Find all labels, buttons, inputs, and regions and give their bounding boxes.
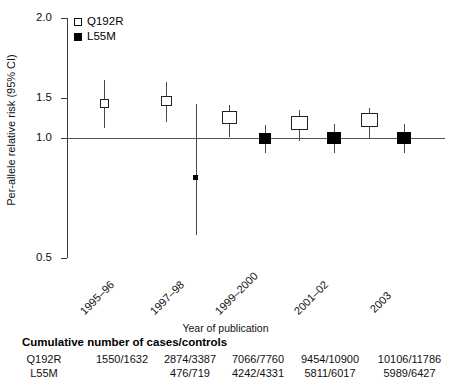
filled-square-icon — [74, 33, 82, 41]
cell-q192r-1999-2000: 7066/7760 — [224, 352, 292, 366]
marker-l55m-2001-02 — [327, 132, 341, 144]
marker-q192r-1995-96 — [100, 99, 109, 108]
cell-q192r-2001-02: 9454/10900 — [292, 352, 368, 366]
whisker-l55m-1997-98 — [196, 104, 197, 235]
table-row: Q192R 1550/1632 2874/3387 7066/7760 9454… — [0, 352, 451, 366]
footer-heading: Cumulative number of cases/controls — [22, 336, 227, 348]
marker-q192r-1997-98 — [161, 96, 172, 106]
table-row: L55M 476/719 4242/4331 5811/6017 5989/64… — [0, 366, 451, 380]
cell-l55m-2001-02: 5811/6017 — [292, 366, 368, 380]
legend: Q192R L55M — [74, 14, 123, 44]
y-axis-title: Per-allele relative risk (95% CI) — [5, 15, 17, 245]
row-label-l55m: L55M — [0, 366, 88, 380]
y-tick-label-1.0: 1.0 — [18, 132, 52, 144]
legend-label-l55m: L55M — [87, 29, 116, 44]
cell-q192r-1997-98: 2874/3387 — [156, 352, 224, 366]
legend-item-q192r: Q192R — [74, 14, 123, 29]
y-tick-label-0.5: 0.5 — [18, 252, 52, 264]
row-label-q192r: Q192R — [0, 352, 88, 366]
x-tick-label-1995-96: 1995–96 — [78, 278, 117, 317]
y-tick-0.5 — [61, 258, 67, 259]
legend-item-l55m: L55M — [74, 29, 123, 44]
cell-l55m-1997-98: 476/719 — [156, 366, 224, 380]
marker-l55m-1999-2000 — [259, 133, 271, 144]
cell-l55m-2003: 5989/6427 — [368, 366, 451, 380]
cell-q192r-2003: 10106/11786 — [368, 352, 451, 366]
x-tick-label-1997-98: 1997–98 — [148, 278, 187, 317]
marker-q192r-2001-02 — [291, 116, 308, 130]
marker-l55m-2003 — [397, 132, 411, 144]
x-tick-label-1999-2000: 1999–2000 — [213, 270, 260, 317]
forest-plot-figure: 2.0 1.5 1.0 0.5 Per-allele relative risk… — [0, 0, 451, 385]
y-tick-2.0 — [61, 18, 67, 19]
cumulative-cases-table: Q192R 1550/1632 2874/3387 7066/7760 9454… — [0, 352, 451, 380]
marker-l55m-1997-98 — [193, 175, 198, 180]
marker-q192r-2003 — [361, 113, 378, 127]
cell-q192r-1995-96: 1550/1632 — [88, 352, 156, 366]
marker-q192r-1999-2000 — [222, 111, 237, 124]
x-tick-label-2003: 2003 — [368, 289, 394, 315]
cell-l55m-1999-2000: 4242/4331 — [224, 366, 292, 380]
y-tick-label-1.5: 1.5 — [18, 92, 52, 104]
y-tick-1.5 — [61, 98, 67, 99]
reference-line-1.0 — [67, 138, 445, 139]
y-tick-label-2.0: 2.0 — [18, 12, 52, 24]
open-square-icon — [74, 18, 82, 26]
legend-label-q192r: Q192R — [87, 14, 123, 29]
x-axis-title: Year of publication — [0, 322, 451, 334]
x-tick-label-2001-02: 2001–02 — [292, 278, 331, 317]
cell-l55m-1995-96 — [88, 366, 156, 380]
